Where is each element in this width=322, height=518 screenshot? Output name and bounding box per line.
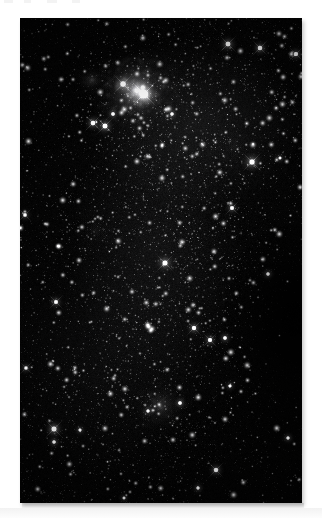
top-artifact-mark xyxy=(47,0,57,3)
star-field-canvas xyxy=(20,18,302,503)
page-bottom-band xyxy=(0,508,322,518)
top-artifact-mark xyxy=(4,0,13,3)
top-artifact-mark xyxy=(72,0,80,3)
star-field-image xyxy=(20,18,302,503)
top-artifact-mark xyxy=(24,0,31,3)
page-root: Monochrome astronomical photograph of a … xyxy=(0,0,322,518)
plate-drop-shadow xyxy=(22,503,304,509)
page-top-artifacts xyxy=(0,0,322,5)
astronomy-photo-frame xyxy=(20,18,302,503)
image-alt-text: Monochrome astronomical photograph of a … xyxy=(0,0,1,1)
